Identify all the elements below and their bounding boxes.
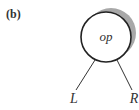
tree-diagram: op L R	[0, 0, 139, 110]
node-label: op	[100, 29, 114, 44]
leaf-right-label: R	[129, 91, 139, 106]
edge-right	[117, 60, 132, 90]
edge-left	[76, 60, 95, 90]
leaf-left-label: L	[69, 91, 78, 106]
